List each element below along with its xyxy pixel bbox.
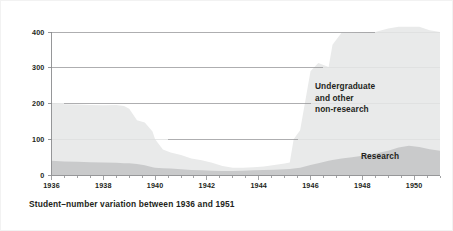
plot-area: 0100200300400 19361938194019421944194619… — [0, 0, 453, 195]
y-tick-label-0: 0 — [40, 171, 44, 180]
x-tick-label-1940: 1940 — [147, 181, 164, 190]
y-tick-label-400: 400 — [32, 28, 44, 37]
undergraduate-label-line-1: Undergraduate — [315, 81, 376, 91]
x-tick-label-1950: 1950 — [406, 181, 423, 190]
research-label-line-1: Research — [361, 151, 399, 161]
x-tick-label-1936: 1936 — [43, 181, 60, 190]
x-tick-label-1946: 1946 — [302, 181, 319, 190]
undergraduate-label-line-2: and other — [315, 93, 354, 103]
figure-caption: Student–number variation between 1936 an… — [29, 199, 439, 209]
chart-figure: 0100200300400 19361938194019421944194619… — [0, 0, 453, 231]
x-axis-tick-labels: 19361938194019421944194619481950 — [43, 181, 422, 190]
area-chart-svg: 0100200300400 19361938194019421944194619… — [0, 0, 453, 195]
y-axis-ticks — [48, 32, 52, 175]
x-tick-label-1944: 1944 — [250, 181, 267, 190]
x-axis-ticks — [52, 176, 441, 180]
y-axis-tick-labels: 0100200300400 — [32, 28, 44, 180]
y-tick-label-100: 100 — [32, 135, 44, 144]
y-tick-label-200: 200 — [32, 99, 44, 108]
undergraduate-label-line-3: non-research — [315, 104, 369, 114]
x-tick-label-1942: 1942 — [199, 181, 216, 190]
x-tick-label-1948: 1948 — [354, 181, 371, 190]
x-tick-label-1938: 1938 — [95, 181, 112, 190]
research-series-label: Research — [361, 151, 399, 161]
y-tick-label-300: 300 — [32, 63, 44, 72]
